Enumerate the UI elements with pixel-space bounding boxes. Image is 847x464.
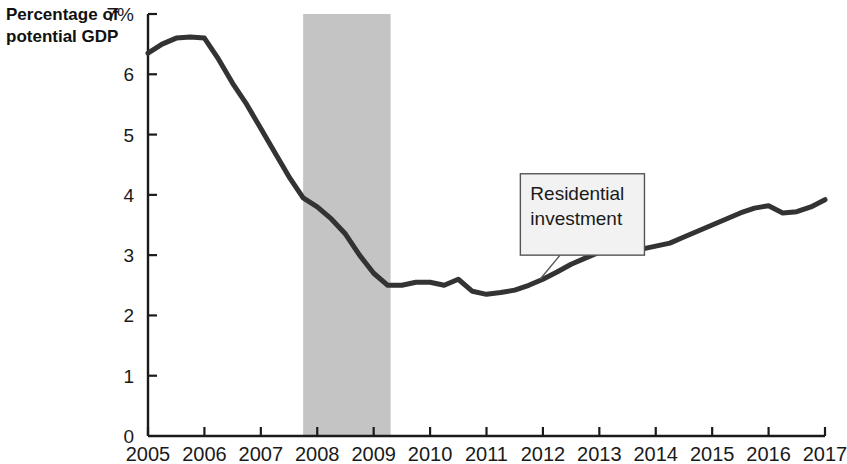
x-tick-label: 2006 [182,443,227,464]
y-tick-label: 1 [123,366,134,387]
callout-label-line1: Residential [530,183,624,204]
y-tick-label: 4 [123,185,134,206]
y-tick-label: 3 [123,245,134,266]
y-tick-label: 5 [123,125,134,146]
y-tick-label: 6 [123,64,134,85]
x-tick-label: 2017 [803,443,847,464]
x-tick-label: 2007 [239,443,284,464]
x-tick-label: 2008 [295,443,340,464]
x-tick-label: 2011 [465,443,508,464]
callout-label-line2: investment [530,208,623,229]
x-tick-label: 2010 [408,443,453,464]
x-tick-label: 2014 [634,443,679,464]
x-tick-label: 2012 [521,443,566,464]
x-tick-label: 2009 [351,443,396,464]
x-tick-label: 2005 [126,443,171,464]
residential-investment-line-chart: 01234567% 200520062007200820092010201120… [0,0,847,464]
recession-band [303,14,390,436]
shaded-region-group [303,14,390,436]
x-tick-label: 2013 [577,443,622,464]
chart-container: 01234567% 200520062007200820092010201120… [0,0,847,464]
x-tick-label: 2016 [746,443,791,464]
x-tick-label: 2015 [690,443,735,464]
y-tick-label: 2 [123,305,134,326]
y-axis-title-line2: potential GDP [6,27,118,46]
y-axis-title-line1: Percentage of [6,5,119,24]
